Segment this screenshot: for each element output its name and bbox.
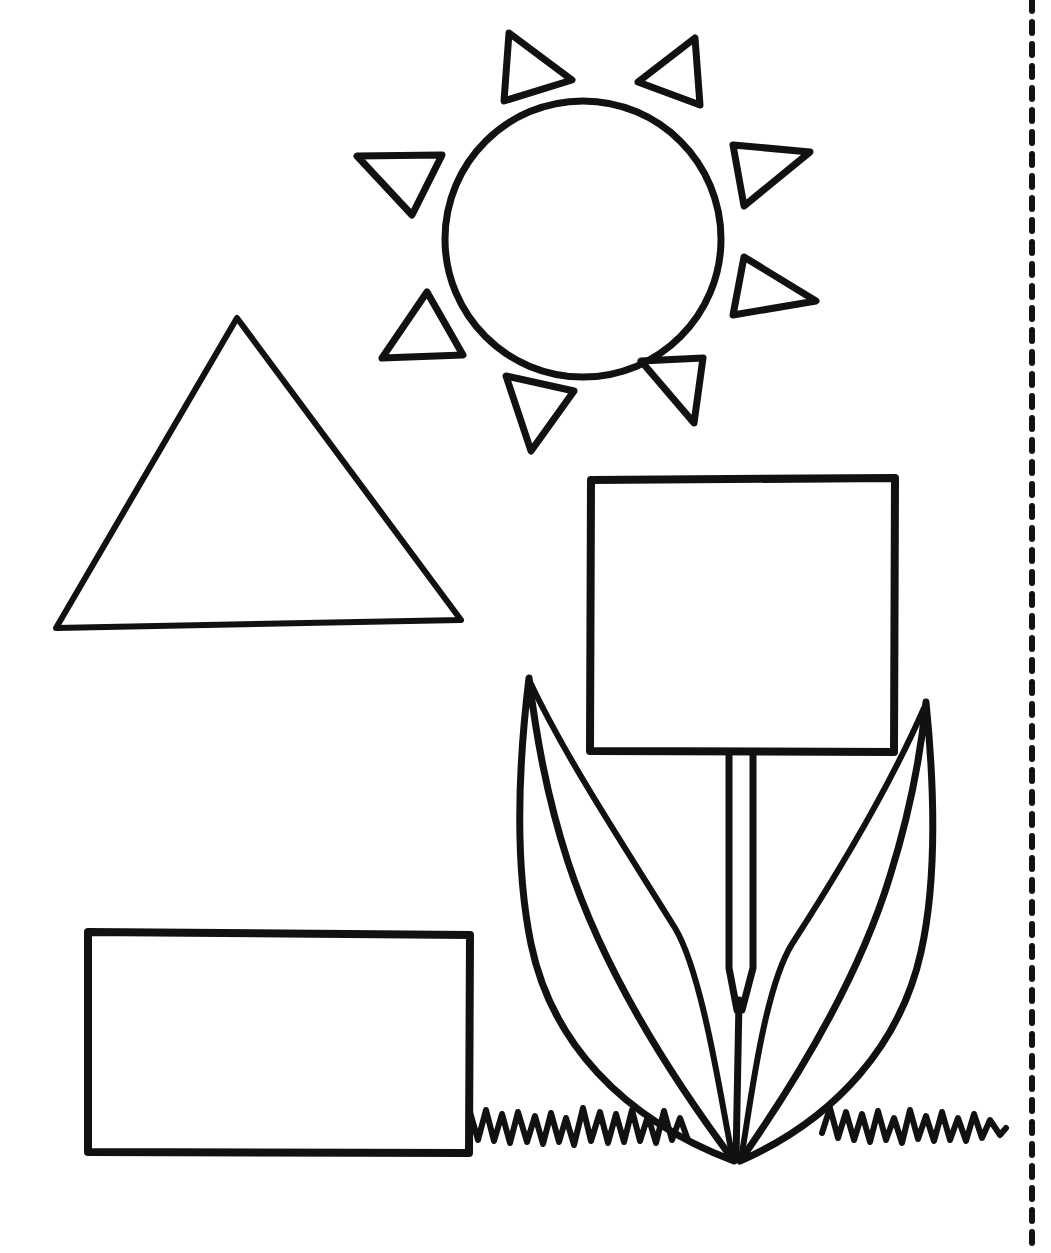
flower-group — [520, 478, 933, 1161]
worksheet-canvas — [0, 0, 1051, 1253]
sun-ray-icon-7 — [506, 376, 574, 451]
sun-ray-icon-1 — [504, 33, 572, 101]
triangle-outline — [56, 318, 461, 628]
worksheet-page — [0, 0, 1051, 1253]
sun-ray-icon-3 — [357, 155, 442, 215]
rectangle-shape — [88, 932, 470, 1153]
flower-leaf-right-vein — [741, 708, 924, 1158]
sun-ray-icon-2 — [638, 38, 700, 105]
sun-ray-icon-6 — [382, 292, 463, 358]
triangle-shape — [56, 318, 461, 628]
sun-group — [357, 33, 816, 451]
sun-circle-icon — [445, 101, 721, 377]
sun-ray-icon-8 — [641, 358, 703, 423]
flower-stem-right-line — [742, 754, 753, 1010]
flower-stem-left-line — [729, 754, 737, 1010]
flower-head-square-outline — [590, 478, 895, 752]
grass-left — [470, 1108, 688, 1145]
flower-leaf-right-outline — [740, 702, 933, 1161]
sun-ray-icon-4 — [733, 145, 810, 206]
rectangle-outline — [88, 932, 470, 1153]
sun-ray-icon-5 — [733, 257, 816, 315]
flower-stem-lower-line — [736, 1000, 739, 1160]
grass-right — [822, 1108, 1006, 1143]
